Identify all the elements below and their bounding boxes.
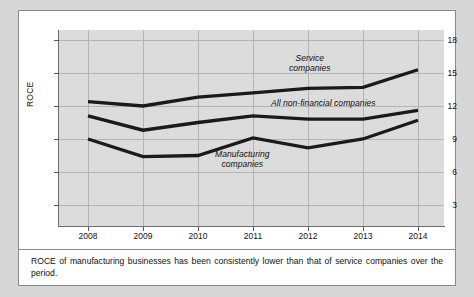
series-label-service-companies: Service companies xyxy=(289,53,331,73)
series-label-line1: All non-financial companies xyxy=(271,98,376,108)
series-line-all-non-financial-companies xyxy=(88,110,418,130)
chart-area: 18 15 12 9 6 3 ROCE 2008 2009 2010 2011 … xyxy=(19,11,457,249)
figure-card: 18 15 12 9 6 3 ROCE 2008 2009 2010 2011 … xyxy=(18,10,456,286)
series-label-all-non-financial-companies: All non-financial companies xyxy=(271,98,376,108)
series-label-line1: Manufacturing xyxy=(215,149,269,159)
series-label-manufacturing-companies: Manufacturing companies xyxy=(215,149,269,169)
caption-divider xyxy=(19,249,455,250)
series-label-line1: Service xyxy=(289,53,331,63)
figure-caption: ROCE of manufacturing businesses has bee… xyxy=(31,255,443,280)
series-label-line2: companies xyxy=(289,63,331,73)
series-lines-svg xyxy=(19,11,457,249)
series-label-line2: companies xyxy=(215,159,269,169)
